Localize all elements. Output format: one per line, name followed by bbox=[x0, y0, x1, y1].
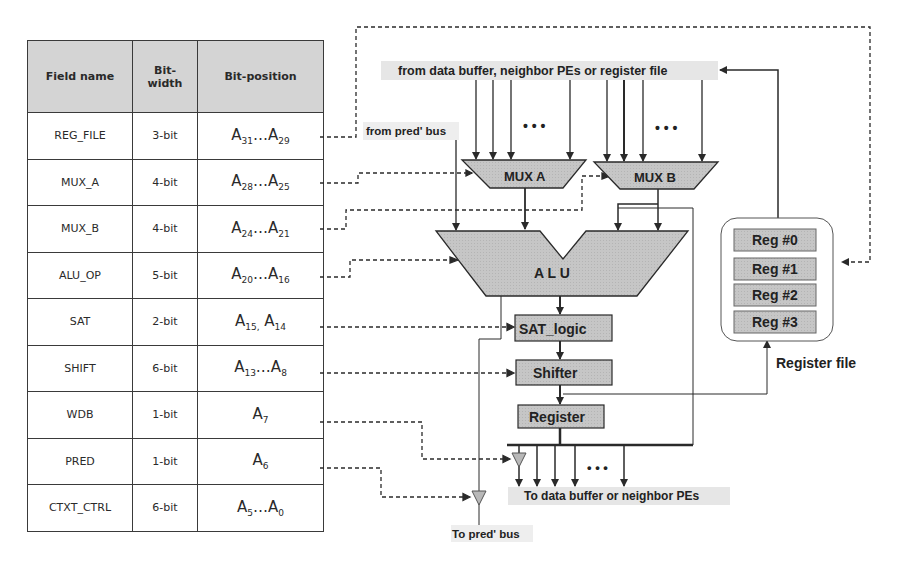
sat-logic-label: SAT_logic bbox=[519, 321, 587, 337]
mux-b-inputs-ellipsis: • • • bbox=[655, 120, 678, 136]
register-entry-label: Reg #3 bbox=[752, 314, 798, 330]
output-ellipsis: • • • bbox=[587, 460, 608, 475]
pred-in-label: from pred' bus bbox=[366, 125, 446, 137]
mux-a-inputs-ellipsis: • • • bbox=[523, 118, 546, 134]
input-bus-label: from data buffer, neighbor PEs or regist… bbox=[398, 64, 668, 78]
mux-a-label: MUX A bbox=[504, 169, 546, 184]
pe-datapath-diagram: from data buffer, neighbor PEs or regist… bbox=[0, 0, 905, 573]
pred-buffer-icon bbox=[472, 491, 486, 505]
register-entry-label: Reg #2 bbox=[752, 287, 798, 303]
alu-block bbox=[436, 231, 688, 296]
mux-b-label: MUX B bbox=[634, 170, 676, 185]
register-file-label: Register file bbox=[776, 355, 856, 371]
register-label: Register bbox=[529, 409, 586, 425]
register-entry-label: Reg #0 bbox=[752, 232, 798, 248]
register-entry-label: Reg #1 bbox=[752, 261, 798, 277]
alu-label: A L U bbox=[534, 265, 570, 281]
shifter-label: Shifter bbox=[533, 365, 578, 381]
output-bus-label: To data buffer or neighbor PEs bbox=[524, 489, 699, 503]
pred-out-label: To pred' bus bbox=[452, 528, 520, 540]
wdb-buffer-icon bbox=[512, 453, 526, 467]
